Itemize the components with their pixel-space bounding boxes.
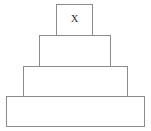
rectangle-tier-second — [39, 35, 111, 67]
rectangle-tier-bottom — [6, 96, 145, 127]
rectangle-tier-third — [23, 66, 128, 97]
rectangle-tier-top-label: X — [71, 14, 78, 24]
rectangle-tier-top: X — [56, 4, 93, 36]
stacked-rectangles-figure: X — [0, 0, 151, 131]
